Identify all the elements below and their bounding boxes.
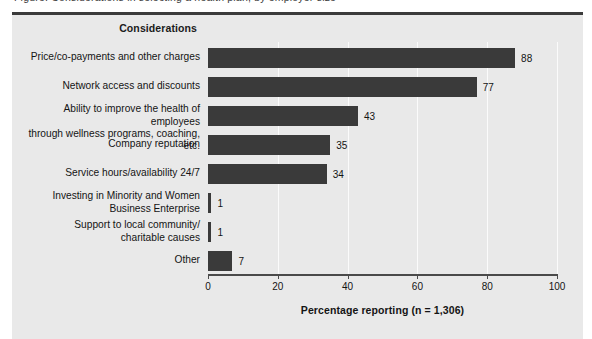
category-labels-column: Price/co-payments and other chargesNetwo…: [12, 42, 200, 304]
bar: [208, 251, 232, 271]
category-label-line: Network access and discounts: [12, 80, 200, 92]
x-axis-baseline: [208, 274, 557, 276]
category-label: Other: [12, 254, 200, 266]
tick-mark-100: [557, 274, 558, 279]
bar: [208, 164, 327, 184]
figure-root: Figure. Considerations in selecting a he…: [0, 0, 592, 339]
category-label-line: Ability to improve the health of employe…: [12, 103, 200, 127]
bar-value-label: 7: [238, 256, 244, 267]
clipped-caption-text: Figure. Considerations in selecting a he…: [14, 0, 336, 3]
category-label-line: Other: [12, 254, 200, 266]
bar-value-label: 1: [217, 198, 223, 209]
bar-value-label: 77: [483, 82, 494, 93]
bar: [208, 193, 211, 213]
category-label: Investing in Minority and WomenBusiness …: [12, 190, 200, 214]
category-label: Network access and discounts: [12, 80, 200, 92]
bar-value-label: 35: [336, 140, 347, 151]
axes-area: 0204060801008877433534117: [208, 42, 583, 304]
category-label: Support to local community/charitable ca…: [12, 219, 200, 243]
bar: [208, 77, 477, 97]
gridline-80: [487, 42, 488, 274]
x-tick-label-20: 20: [272, 281, 283, 292]
category-label: Price/co-payments and other charges: [12, 51, 200, 63]
x-tick-label-40: 40: [342, 281, 353, 292]
x-axis-title: Percentage reporting (n = 1,306): [208, 304, 557, 316]
category-label-line: charitable causes: [12, 232, 200, 244]
gridline-100: [557, 42, 558, 274]
x-tick-label-0: 0: [205, 281, 211, 292]
category-label-line: Company reputation: [12, 138, 200, 150]
category-label-line: Investing in Minority and Women: [12, 190, 200, 202]
category-label-line: Service hours/availability 24/7: [12, 167, 200, 179]
considerations-column-header: Considerations: [12, 22, 197, 34]
category-label-line: Business Enterprise: [12, 203, 200, 215]
category-label-line: Price/co-payments and other charges: [12, 51, 200, 63]
bar-value-label: 34: [333, 169, 344, 180]
bar: [208, 48, 515, 68]
x-tick-label-100: 100: [549, 281, 566, 292]
bar: [208, 106, 358, 126]
x-tick-label-80: 80: [482, 281, 493, 292]
bar-value-label: 88: [521, 53, 532, 64]
bar: [208, 222, 211, 242]
x-tick-label-60: 60: [412, 281, 423, 292]
chart-panel: Considerations Price/co-payments and oth…: [12, 12, 583, 339]
category-label: Service hours/availability 24/7: [12, 167, 200, 179]
bar-value-label: 43: [364, 111, 375, 122]
bar-value-label: 1: [217, 227, 223, 238]
plot-area: Price/co-payments and other chargesNetwo…: [12, 42, 583, 304]
category-label: Company reputation: [12, 138, 200, 150]
category-label-line: Support to local community/: [12, 219, 200, 231]
clipped-caption: Figure. Considerations in selecting a he…: [0, 0, 592, 11]
panel-top-rule: [12, 12, 583, 15]
bar: [208, 135, 330, 155]
